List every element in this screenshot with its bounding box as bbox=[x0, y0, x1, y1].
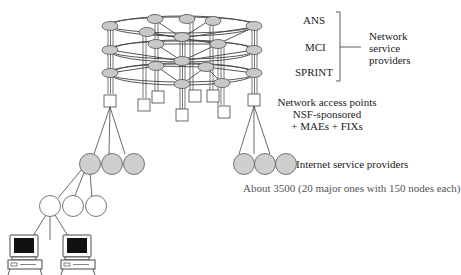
nap-box bbox=[189, 90, 201, 102]
backbone-nodes bbox=[102, 15, 262, 89]
backbone-node bbox=[174, 33, 190, 42]
backbone-node bbox=[246, 69, 262, 78]
local-node bbox=[40, 196, 61, 217]
backbone-node bbox=[102, 69, 118, 78]
isp-nodes-left bbox=[80, 154, 145, 175]
backbone-node bbox=[246, 46, 262, 55]
isp-count-note: About 3500 (20 major ones with 150 nodes… bbox=[243, 182, 461, 194]
isp-label: Internet service providers bbox=[296, 158, 408, 170]
computer-icon bbox=[61, 235, 95, 275]
isp-node bbox=[276, 154, 297, 175]
network-service-providers-label: Network service providers bbox=[369, 30, 411, 66]
nap-box bbox=[152, 91, 164, 103]
provider-label-ans: ANS bbox=[303, 14, 325, 26]
isp-node bbox=[124, 154, 145, 175]
backbone-node bbox=[179, 15, 195, 24]
provider-label-sprint: SPRINT bbox=[295, 66, 333, 78]
computer-icon bbox=[8, 235, 42, 275]
local-node bbox=[63, 196, 84, 217]
backbone-node bbox=[148, 62, 164, 71]
backbone-node bbox=[148, 40, 164, 49]
backbone-node bbox=[174, 80, 190, 89]
backbone-node bbox=[102, 22, 118, 31]
isp-node bbox=[255, 154, 276, 175]
backbone-node bbox=[205, 17, 221, 26]
providers-bracket bbox=[336, 12, 361, 81]
backbone-node bbox=[102, 46, 118, 55]
backbone-node bbox=[147, 15, 163, 24]
nap-box bbox=[138, 99, 150, 111]
isp-node bbox=[234, 154, 255, 175]
nap-box bbox=[104, 95, 116, 107]
isp-node bbox=[80, 154, 101, 175]
backbone-node bbox=[214, 79, 230, 88]
nap-box bbox=[176, 109, 188, 121]
isp-nodes-right bbox=[234, 154, 297, 175]
local-node bbox=[86, 196, 107, 217]
backbone-node bbox=[246, 22, 262, 31]
nap-isp-links bbox=[33, 106, 270, 240]
local-nodes bbox=[40, 196, 107, 217]
nap-box bbox=[207, 90, 219, 102]
backbone-ring-links bbox=[108, 16, 256, 85]
provider-label-mci: MCI bbox=[305, 41, 326, 53]
network-access-points bbox=[104, 90, 260, 121]
backbone-node bbox=[139, 28, 155, 37]
nap-box bbox=[248, 94, 260, 106]
backbone-node bbox=[198, 63, 214, 72]
backbone-node bbox=[174, 57, 190, 66]
isp-node bbox=[102, 154, 123, 175]
nap-box bbox=[218, 106, 230, 118]
network-access-points-label: Network access points NSF-sponsored + MA… bbox=[275, 96, 379, 132]
backbone-node bbox=[210, 40, 226, 49]
